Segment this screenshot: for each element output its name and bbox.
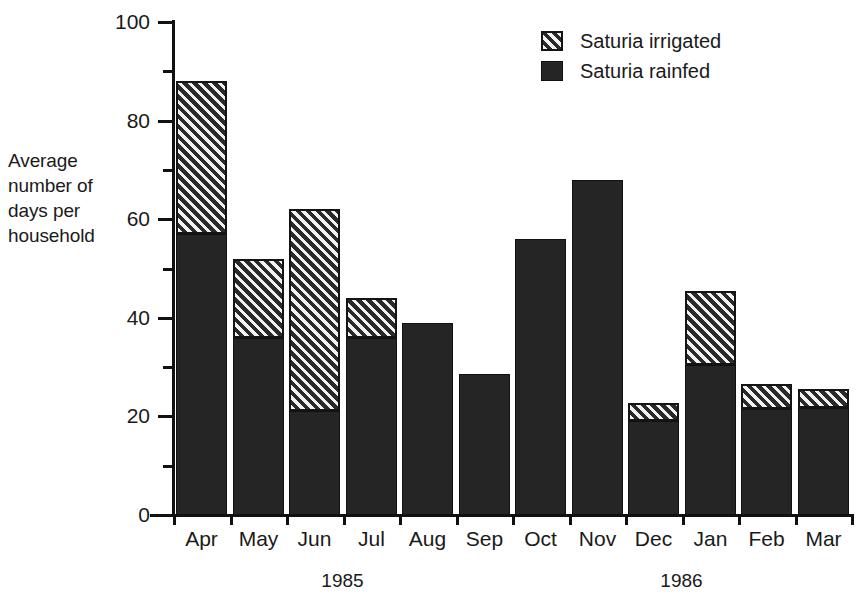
- x-axis-label-feb: Feb: [738, 527, 795, 551]
- bar-segment-rainfed: [459, 374, 510, 515]
- legend-swatch-hatched-icon: [541, 31, 563, 51]
- bar-segment-rainfed: [515, 239, 566, 515]
- bar-segment-rainfed: [741, 409, 792, 515]
- x-axis-tick: [682, 514, 685, 525]
- y-axis-major-tick: [158, 317, 173, 320]
- x-axis-tick: [625, 514, 628, 525]
- y-axis-minor-tick: [163, 169, 173, 172]
- bar-segment-rainfed: [289, 411, 340, 515]
- x-axis-label-aug: Aug: [399, 527, 456, 551]
- y-axis-minor-tick: [163, 268, 173, 271]
- bar-segment-rainfed: [628, 421, 679, 515]
- legend: Saturia irrigated Saturia rainfed: [541, 26, 721, 86]
- y-axis-major-tick: [158, 415, 173, 418]
- plot-area: 020406080100 AprMayJunJulAugSepOctNovDec…: [0, 0, 858, 603]
- bar-stack-nov[interactable]: [572, 22, 623, 515]
- bar-segment-rainfed: [798, 408, 849, 515]
- bar-segment-rainfed: [572, 180, 623, 515]
- bar-stack-aug[interactable]: [402, 22, 453, 515]
- x-axis-label-jun: Jun: [286, 527, 343, 551]
- y-axis-tick-label: 40: [100, 307, 150, 328]
- bar-segment-irrigated: [176, 81, 227, 234]
- year-label-1986: 1986: [512, 570, 851, 592]
- bar-segment-rainfed: [176, 234, 227, 515]
- x-axis-tick: [173, 514, 176, 525]
- x-axis-tick: [738, 514, 741, 525]
- x-axis-tick: [456, 514, 459, 525]
- x-axis-label-apr: Apr: [173, 527, 230, 551]
- y-axis-tick-label: 60: [100, 208, 150, 229]
- chart-container: Average number of days per household 020…: [0, 0, 858, 603]
- bar-stack-feb[interactable]: [741, 22, 792, 515]
- bar-stack-sep[interactable]: [459, 22, 510, 515]
- bar-segment-irrigated: [685, 291, 736, 365]
- x-axis-label-sep: Sep: [456, 527, 513, 551]
- x-axis-label-may: May: [230, 527, 287, 551]
- y-axis-minor-tick: [163, 70, 173, 73]
- bar-stack-jun[interactable]: [289, 22, 340, 515]
- legend-label-rainfed: Saturia rainfed: [580, 60, 710, 82]
- bar-segment-rainfed: [402, 323, 453, 515]
- bar-segment-irrigated: [289, 209, 340, 411]
- y-axis-minor-tick: [163, 366, 173, 369]
- bar-segment-rainfed: [685, 365, 736, 515]
- bar-segment-rainfed: [233, 338, 284, 515]
- x-axis-label-nov: Nov: [569, 527, 626, 551]
- legend-swatch-solid-icon: [541, 61, 563, 81]
- y-axis-major-tick: [158, 218, 173, 221]
- x-axis-tick: [230, 514, 233, 525]
- bar-stack-mar[interactable]: [798, 22, 849, 515]
- y-axis-major-tick: [158, 21, 173, 24]
- y-axis-major-tick: [158, 514, 173, 517]
- y-axis-tick-label: 80: [100, 110, 150, 131]
- bar-segment-irrigated: [233, 259, 284, 338]
- x-axis-label-jan: Jan: [682, 527, 739, 551]
- x-axis-tick: [286, 514, 289, 525]
- legend-item-rainfed[interactable]: Saturia rainfed: [541, 56, 721, 86]
- y-axis-tick-label: 20: [100, 405, 150, 426]
- x-axis-tick: [343, 514, 346, 525]
- legend-label-irrigated: Saturia irrigated: [580, 30, 721, 52]
- x-axis-label-dec: Dec: [625, 527, 682, 551]
- bar-stack-jul[interactable]: [346, 22, 397, 515]
- bar-segment-rainfed: [346, 338, 397, 515]
- x-axis-tick: [569, 514, 572, 525]
- x-axis-tick: [512, 514, 515, 525]
- x-axis-label-oct: Oct: [512, 527, 569, 551]
- bar-segment-irrigated: [346, 298, 397, 337]
- bar-stack-may[interactable]: [233, 22, 284, 515]
- year-label-1985: 1985: [173, 570, 512, 592]
- bar-stack-jan[interactable]: [685, 22, 736, 515]
- y-axis-tick-label: 100: [100, 11, 150, 32]
- bar-segment-irrigated: [628, 403, 679, 421]
- bar-stack-apr[interactable]: [176, 22, 227, 515]
- x-axis-tick: [399, 514, 402, 525]
- y-axis-tick-label: 0: [100, 504, 150, 525]
- bar-stack-dec[interactable]: [628, 22, 679, 515]
- x-axis-tick: [795, 514, 798, 525]
- x-axis-label-mar: Mar: [795, 527, 852, 551]
- x-axis-tick: [851, 514, 854, 525]
- y-axis-major-tick: [158, 120, 173, 123]
- bar-segment-irrigated: [741, 384, 792, 409]
- x-axis-label-jul: Jul: [343, 527, 400, 551]
- bar-stack-oct[interactable]: [515, 22, 566, 515]
- legend-item-irrigated[interactable]: Saturia irrigated: [541, 26, 721, 56]
- y-axis-minor-tick: [163, 465, 173, 468]
- bar-segment-irrigated: [798, 389, 849, 408]
